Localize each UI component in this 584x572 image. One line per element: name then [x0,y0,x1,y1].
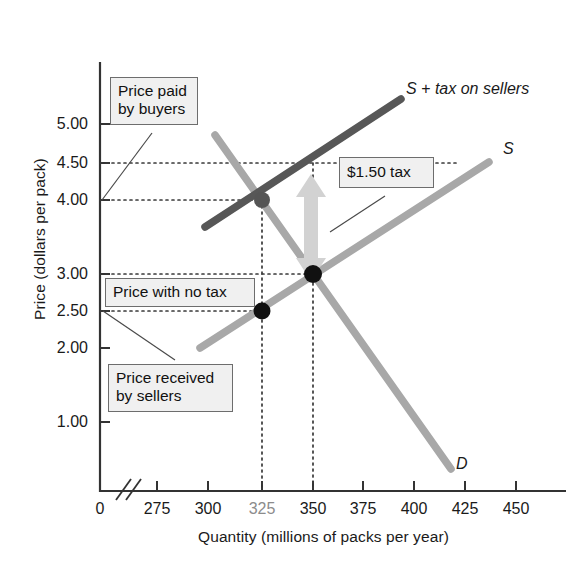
x-tick-label-325: 325 [249,500,276,518]
y-tick-label-3-00: 3.00 [10,265,88,283]
x-tick-label-275: 275 [144,500,171,518]
curve-label-supply: S [503,140,514,158]
x-tick-marks [157,481,516,491]
y-tick-label-5-00: 5.00 [10,115,88,133]
curve-label-demand: D [456,455,468,473]
callout-tax-amount: $1.50 tax [339,157,434,188]
y-tick-label-2-00: 2.00 [10,339,88,357]
x-tick-label-300: 300 [195,500,222,518]
point-price-with-no-tax [304,265,322,283]
leader-price-received-by-sellers [103,311,175,360]
x-axis-title: Quantity (millions of packs per year) [198,528,449,546]
point-price-received-by-sellers [254,303,271,320]
x-tick-label-375: 375 [350,500,377,518]
leader-price-paid-by-buyers [102,133,152,200]
tax-incidence-chart: Price (dollars per pack) Quantity (milli… [0,0,584,572]
leader-tax-amount [330,196,385,232]
x-tick-label-350: 350 [300,500,327,518]
y-tick-label-1-00: 1.00 [10,413,88,431]
tax-gap-arrow [296,174,326,281]
curve-label-supply-plus-tax: S + tax on sellers [406,80,529,98]
x-tick-label-425: 425 [452,500,479,518]
callout-price-received-by-sellers: Price received by sellers [108,364,233,412]
x-tick-label-450: 450 [503,500,530,518]
x-tick-label-400: 400 [401,500,428,518]
y-tick-label-4-50: 4.50 [10,154,88,172]
callout-price-with-no-tax: Price with no tax [105,278,255,307]
y-tick-label-4-00: 4.00 [10,191,88,209]
point-price-paid-by-buyers [254,192,270,208]
callout-price-paid-by-buyers: Price paid by buyers [110,77,198,125]
y-tick-label-2-50: 2.50 [10,302,88,320]
origin-label: 0 [96,500,105,518]
